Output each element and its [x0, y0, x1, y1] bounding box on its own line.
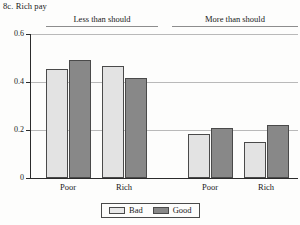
bar-group-poor	[188, 34, 233, 178]
bar-rich-good[interactable]	[267, 125, 289, 178]
x-label-poor: Poor	[40, 182, 96, 192]
panel-header-rule	[46, 26, 158, 27]
legend-label-good: Good	[173, 206, 192, 215]
legend: Bad Good	[101, 203, 200, 218]
bar-rich-bad[interactable]	[102, 66, 124, 178]
page-title: 8c. Rich pay	[3, 1, 47, 11]
y-tick-label-0: 0	[0, 174, 24, 182]
x-label-rich: Rich	[96, 182, 152, 192]
bar-poor-bad[interactable]	[46, 69, 68, 178]
bar-rich-good[interactable]	[125, 78, 147, 178]
panel-header-label: More than should	[172, 14, 298, 25]
legend-item-bad[interactable]: Bad	[109, 206, 143, 215]
legend-swatch-good-icon	[153, 207, 169, 214]
plot-area: 0.6 0.4 0.2 0 Poor Rich Poor	[30, 34, 298, 178]
y-tick-mark-0	[26, 178, 30, 179]
y-tick-label-0.6: 0.6	[0, 30, 24, 38]
bar-poor-good[interactable]	[69, 60, 91, 178]
panel-less-than-should: Poor Rich	[30, 34, 158, 178]
bar-poor-bad[interactable]	[188, 134, 210, 178]
chart-page: 8c. Rich pay Less than should More than …	[0, 0, 300, 225]
panel-header-more-than-should: More than should	[172, 14, 298, 27]
panel-more-than-should: Poor Rich	[172, 34, 298, 178]
y-tick-label-0.4: 0.4	[0, 78, 24, 86]
x-label-rich: Rich	[238, 182, 294, 192]
panel-header-rule	[172, 26, 298, 27]
legend-label-bad: Bad	[129, 206, 143, 215]
y-tick-label-0.2: 0.2	[0, 126, 24, 134]
legend-item-good[interactable]: Good	[153, 206, 192, 215]
bar-group-poor	[46, 34, 91, 178]
panel-header-label: Less than should	[46, 14, 158, 25]
x-axis	[30, 178, 298, 179]
bar-group-rich	[244, 34, 289, 178]
bar-poor-good[interactable]	[211, 128, 233, 178]
panel-header-less-than-should: Less than should	[46, 14, 158, 27]
bar-group-rich	[102, 34, 147, 178]
bar-rich-bad[interactable]	[244, 142, 266, 178]
x-label-poor: Poor	[182, 182, 238, 192]
legend-swatch-bad-icon	[109, 207, 125, 214]
